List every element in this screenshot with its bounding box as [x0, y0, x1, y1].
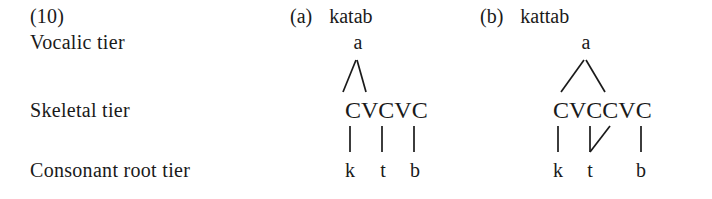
tier-label-vocalic: Vocalic tier: [30, 30, 125, 54]
derivation-b-tag: (b): [480, 4, 503, 28]
assoc-line-b-vowel-right: [586, 60, 605, 92]
derivation-a-word: katab: [329, 4, 372, 28]
derivation-a-root-segment-1: k: [341, 158, 359, 182]
autosegmental-figure: (10) Vocalic tier Skeletal tier Consonan…: [0, 0, 712, 199]
derivation-b-vocalic-node: a: [576, 30, 596, 54]
derivation-a-tag: (a): [290, 4, 312, 28]
derivation-b-root-segment-3: b: [632, 158, 650, 182]
derivation-b: (b)kattab a CVCCVC k t b: [480, 0, 712, 199]
derivation-a-root-segment-2: t: [374, 158, 392, 182]
derivation-a-header: (a)katab: [290, 4, 373, 28]
derivation-b-root-segment-1: k: [549, 158, 567, 182]
derivation-a-skeletal-string: CVCVC: [345, 96, 428, 124]
tier-label-consonant-root: Consonant root tier: [30, 158, 190, 182]
assoc-line-b-vowel-left: [561, 60, 584, 92]
derivation-a-vocalic-node: a: [348, 30, 368, 54]
derivation-b-root-segment-2: t: [581, 158, 599, 182]
derivation-b-skeletal-string: CVCCVC: [553, 96, 652, 124]
derivation-a: (a)katab a CVCVC k t b: [290, 0, 480, 199]
derivation-b-header: (b)kattab: [480, 4, 569, 28]
derivation-b-word: kattab: [520, 4, 569, 28]
assoc-line-a-vowel-left: [343, 60, 356, 92]
assoc-line-a-vowel-right: [357, 60, 366, 92]
tier-label-skeletal: Skeletal tier: [30, 98, 130, 122]
example-number: (10): [30, 4, 64, 28]
derivation-a-root-segment-3: b: [406, 158, 424, 182]
assoc-line-b-geminate-right: [590, 126, 610, 152]
